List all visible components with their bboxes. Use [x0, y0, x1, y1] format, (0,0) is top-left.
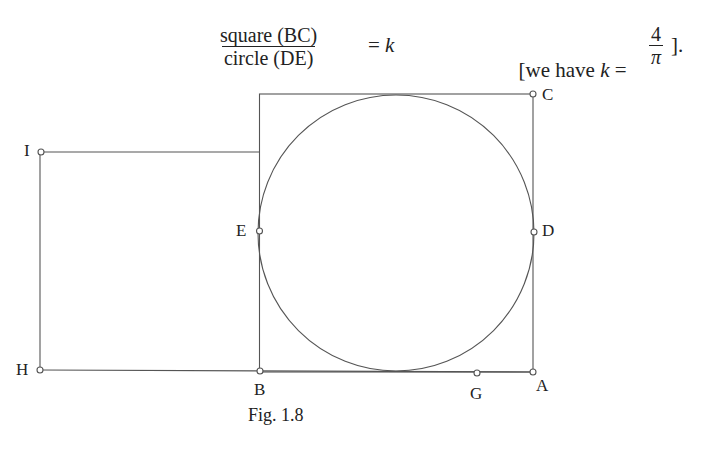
label-c: C [542, 85, 553, 105]
point-a-marker [530, 369, 536, 375]
point-e-marker [257, 228, 263, 234]
circle-de [258, 95, 534, 371]
figure-diagram [0, 0, 708, 454]
label-i: I [24, 141, 30, 161]
square-bc [260, 94, 534, 372]
figure-caption: Fig. 1.8 [248, 405, 304, 426]
label-g: G [470, 384, 482, 404]
label-e: E [236, 221, 246, 241]
point-d-marker [531, 229, 537, 235]
point-h-marker [37, 367, 43, 373]
point-b-marker [257, 368, 263, 374]
label-a: A [536, 376, 548, 396]
label-d: D [542, 221, 554, 241]
point-c-marker [530, 91, 536, 97]
point-g-marker [474, 370, 480, 376]
label-h: H [16, 360, 28, 380]
point-i-marker [38, 149, 44, 155]
label-b: B [254, 380, 265, 400]
